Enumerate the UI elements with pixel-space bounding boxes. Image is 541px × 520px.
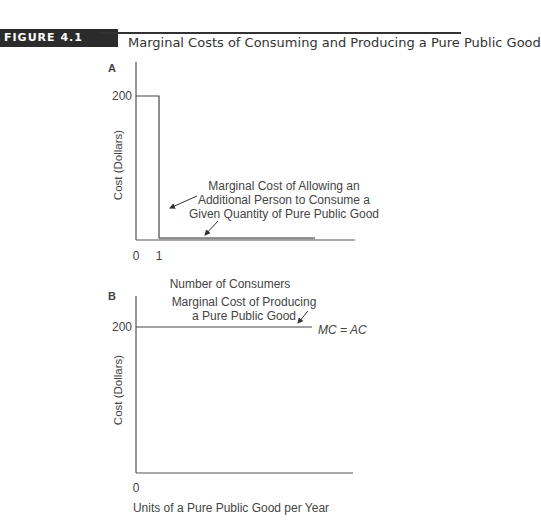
panel-b-xlabel: Units of a Pure Public Good per Year [133, 501, 329, 515]
panel-a: A 200 Cost (Dollars) 0 1 Number of Consu… [108, 62, 379, 291]
panel-a-xlabel: Number of Consumers [170, 277, 291, 291]
panel-b-label: B [108, 290, 116, 302]
panel-a-annotation-2: Additional Person to Consume a [198, 193, 370, 207]
panel-a-annotation-3: Given Quantity of Pure Public Good [189, 207, 379, 221]
panel-b-annotation-2: a Pure Public Good [192, 309, 296, 323]
panel-a-x-tick-1: 1 [156, 249, 163, 263]
panel-a-label: A [108, 62, 116, 74]
panel-b-annotation-1: Marginal Cost of Producing [172, 295, 317, 309]
panel-b: B 200 Cost (Dollars) Marginal Cost of Pr… [108, 290, 367, 515]
panel-a-annotation-1: Marginal Cost of Allowing an [208, 179, 359, 193]
panel-b-x-tick-0: 0 [133, 481, 140, 495]
panel-b-y-tick: 200 [112, 320, 132, 334]
panel-b-curve-label: MC = AC [318, 323, 367, 337]
panel-a-arrow-2 [205, 221, 218, 235]
panel-b-ylabel: Cost (Dollars) [112, 355, 124, 425]
panel-b-arrow [298, 311, 308, 323]
panel-a-ylabel: Cost (Dollars) [112, 130, 124, 200]
panel-a-x-tick-0: 0 [133, 249, 140, 263]
panel-a-y-tick: 200 [112, 89, 132, 103]
